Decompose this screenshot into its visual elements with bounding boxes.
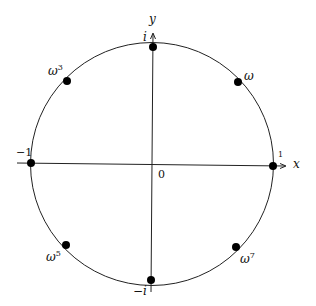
point-omega7	[232, 243, 240, 251]
label-omega3: ω3	[48, 64, 63, 77]
point-minus-1	[27, 159, 35, 167]
label-omega: ω	[244, 70, 254, 82]
omega-base: ω	[244, 69, 254, 83]
label-omega7: ω7	[240, 252, 255, 265]
omega7-base: ω	[240, 252, 250, 266]
omega5-base: ω	[46, 250, 56, 264]
omega3-exponent: 3	[58, 63, 63, 72]
x-axis-label: x	[293, 158, 300, 170]
y-axis	[151, 34, 153, 292]
x-axis	[17, 163, 285, 166]
omega5-exponent: 5	[56, 249, 61, 258]
point-omega5	[62, 241, 70, 249]
label-minus-i: −i	[133, 285, 147, 297]
point-1	[269, 162, 277, 170]
label-i: i	[143, 31, 147, 43]
label-1: 1	[278, 151, 283, 159]
point-i	[149, 43, 157, 51]
point-omega	[234, 78, 242, 86]
label-minus-1: −1	[16, 147, 32, 158]
omega7-exponent: 7	[250, 251, 255, 260]
origin-label: 0	[158, 169, 165, 180]
point-omega3	[63, 77, 71, 85]
omega3-base: ω	[48, 64, 58, 78]
point-minus-i	[147, 276, 155, 284]
y-axis-label: y	[149, 13, 156, 25]
label-omega5: ω5	[46, 250, 61, 263]
